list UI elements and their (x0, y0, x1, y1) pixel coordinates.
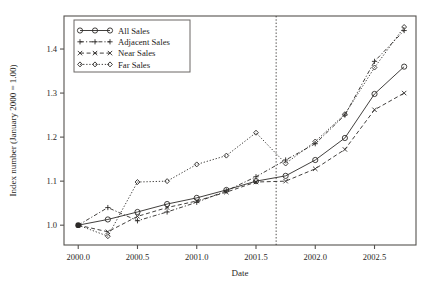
legend-item-near-sales[interactable]: Near Sales (78, 48, 156, 58)
data-point-marker (107, 39, 112, 44)
data-point-marker (402, 91, 406, 95)
data-point-marker (105, 205, 110, 210)
x-axis-title: Date (232, 268, 249, 278)
data-point-marker (313, 167, 317, 171)
y-tick-label: 1.3 (46, 88, 57, 98)
y-tick-label: 1.0 (46, 220, 57, 230)
legend-item-all-sales[interactable]: All Sales (77, 26, 150, 36)
data-point-marker (92, 39, 97, 44)
origin-point (75, 222, 81, 228)
legend-label: Far Sales (118, 60, 151, 70)
data-point-marker (165, 209, 170, 214)
y-tick-label: 1.1 (46, 176, 57, 186)
y-tick-label: 1.4 (46, 44, 57, 54)
x-tick-label: 2002.0 (304, 252, 327, 262)
chart-figure: 2000.02000.52001.02001.52002.02002.51.01… (0, 0, 428, 288)
data-point-marker (372, 108, 376, 112)
legend-label: Near Sales (118, 48, 156, 58)
data-point-marker (194, 162, 199, 167)
data-point-marker (253, 174, 258, 179)
legend-item-adjacent-sales[interactable]: Adjacent Sales (77, 37, 170, 47)
series-near-sales (78, 91, 406, 234)
series-line (78, 93, 404, 232)
legend-label: Adjacent Sales (118, 37, 170, 47)
data-point-marker (254, 130, 259, 135)
data-point-marker (343, 147, 347, 151)
data-point-marker (135, 218, 140, 223)
x-tick-label: 2002.5 (363, 252, 386, 262)
y-axis-title: Index number (January 2000 = 1.00) (8, 64, 18, 196)
data-point-marker (283, 179, 287, 183)
data-point-marker (402, 28, 407, 33)
x-tick-label: 2000.5 (126, 252, 149, 262)
data-point-marker (372, 59, 377, 64)
series-line (78, 27, 404, 236)
legend-label: All Sales (118, 26, 150, 36)
data-point-marker (77, 39, 82, 44)
plot-frame (64, 16, 416, 245)
x-tick-label: 2001.0 (185, 252, 208, 262)
x-tick-label: 2000.0 (67, 252, 90, 262)
legend-item-far-sales[interactable]: Far Sales (78, 60, 151, 70)
y-tick-label: 1.2 (46, 132, 57, 142)
x-tick-label: 2001.5 (244, 252, 267, 262)
